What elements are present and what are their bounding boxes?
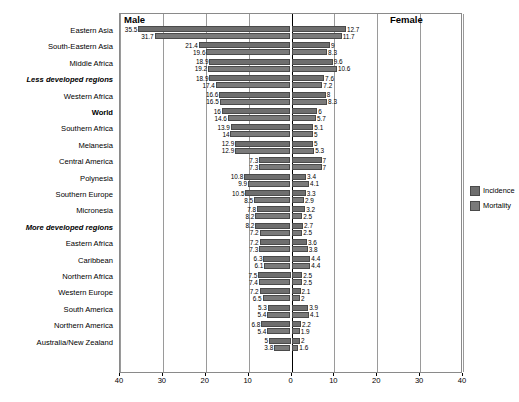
category-label: Western Africa: [64, 93, 113, 101]
bar-mortality: [208, 66, 290, 72]
bar-mortality: [206, 49, 290, 55]
bar-mortality: [292, 213, 303, 219]
value-label-incidence: 7: [323, 157, 327, 164]
value-label-mortality: 16.5: [206, 98, 218, 105]
bar-incidence: [209, 75, 290, 81]
legend-swatch-mortality: [470, 201, 480, 211]
bar-incidence: [292, 124, 314, 130]
category-label: South America: [64, 306, 113, 314]
x-tick-label: 30: [407, 376, 431, 385]
value-label-incidence: 3.6: [308, 239, 317, 246]
bar-incidence: [292, 190, 306, 196]
bar-mortality: [259, 164, 290, 170]
bar-mortality: [292, 148, 315, 154]
bar-mortality: [259, 246, 290, 252]
value-label-incidence: 16: [214, 108, 221, 115]
value-label-incidence: 2.5: [303, 272, 312, 279]
value-label-mortality: 19.2: [195, 65, 207, 72]
value-label-incidence: 18.9: [196, 58, 208, 65]
value-label-mortality: 8.2: [245, 213, 254, 220]
bar-mortality: [292, 49, 328, 55]
bar-mortality: [292, 99, 328, 105]
category-label: Micronesia: [76, 207, 113, 215]
x-tick-label: 20: [193, 376, 217, 385]
value-label-incidence: 7.6: [325, 75, 334, 82]
value-label-mortality: 14.6: [214, 115, 226, 122]
bar-mortality: [292, 181, 310, 187]
value-label-incidence: 8: [327, 91, 331, 98]
bar-mortality: [228, 115, 291, 121]
bar-mortality: [292, 279, 303, 285]
bar-chart: Male Female Eastern AsiaSouth-Eastern As…: [0, 0, 519, 402]
bar-mortality: [230, 131, 290, 137]
bar-incidence: [292, 141, 313, 147]
value-label-incidence: 9: [331, 42, 335, 49]
bar-incidence: [292, 26, 346, 32]
bar-incidence: [269, 338, 290, 344]
bar-mortality: [292, 82, 323, 88]
value-label-mortality: 7.3: [249, 246, 258, 253]
value-label-incidence: 3.2: [306, 206, 315, 213]
value-label-mortality: 8.3: [328, 49, 337, 56]
bar-mortality: [264, 263, 290, 269]
value-label-incidence: 6.8: [251, 321, 260, 328]
bar-incidence: [292, 305, 309, 311]
value-label-incidence: 7.2: [250, 288, 259, 295]
legend-item-incidence: Incidence: [470, 186, 518, 196]
bar-mortality: [292, 345, 299, 351]
value-label-incidence: 7.2: [250, 239, 259, 246]
category-label: Eastern Asia: [70, 27, 113, 35]
bar-incidence: [292, 92, 326, 98]
bar-mortality: [267, 312, 290, 318]
bar-incidence: [292, 59, 333, 65]
bar-incidence: [292, 174, 307, 180]
value-label-incidence: 2: [301, 337, 305, 344]
value-label-incidence: 5.1: [314, 124, 323, 131]
category-label: Melanesia: [78, 142, 113, 150]
value-label-incidence: 5: [265, 337, 269, 344]
value-label-incidence: 9.6: [334, 58, 343, 65]
bar-mortality: [292, 295, 301, 301]
value-label-mortality: 31.7: [141, 33, 153, 40]
value-label-incidence: 3.9: [309, 304, 318, 311]
bar-incidence: [199, 42, 291, 48]
bar-incidence: [219, 92, 290, 98]
bar-incidence: [259, 157, 290, 163]
value-label-incidence: 18.9: [196, 75, 208, 82]
bar-incidence: [260, 288, 291, 294]
bar-mortality: [267, 328, 290, 334]
value-label-mortality: 7.4: [249, 279, 258, 286]
value-label-mortality: 7.2: [323, 82, 332, 89]
bar-incidence: [244, 174, 290, 180]
bar-incidence: [255, 223, 290, 229]
bar-incidence: [260, 239, 291, 245]
bar-mortality: [292, 197, 304, 203]
value-label-mortality: 5.4: [257, 328, 266, 335]
bar-incidence: [292, 157, 322, 163]
value-label-incidence: 2.2: [302, 321, 311, 328]
value-label-mortality: 2.5: [303, 229, 312, 236]
bar-incidence: [292, 108, 318, 114]
category-label: Northern America: [54, 322, 113, 330]
value-label-mortality: 2.9: [305, 197, 314, 204]
bar-mortality: [263, 295, 291, 301]
value-label-incidence: 12.7: [347, 26, 359, 33]
bar-mortality: [292, 164, 322, 170]
value-label-mortality: 7: [323, 164, 327, 171]
category-axis-labels: Eastern AsiaSouth-Eastern AsiaMiddle Afr…: [0, 13, 117, 373]
bar-mortality: [260, 230, 291, 236]
value-label-mortality: 1.6: [299, 344, 308, 351]
value-label-incidence: 12.9: [222, 140, 234, 147]
value-label-mortality: 4.1: [310, 311, 319, 318]
bar-incidence: [292, 321, 301, 327]
value-label-mortality: 1.9: [301, 328, 310, 335]
bar-incidence: [292, 239, 307, 245]
value-label-mortality: 7.2: [250, 229, 259, 236]
category-label: World: [92, 109, 113, 117]
bar-incidence: [292, 338, 301, 344]
x-tick-label: 30: [150, 376, 174, 385]
bar-mortality: [292, 66, 337, 72]
value-label-mortality: 9.9: [238, 180, 247, 187]
bar-incidence: [292, 42, 331, 48]
category-label: Polynesia: [80, 175, 113, 183]
